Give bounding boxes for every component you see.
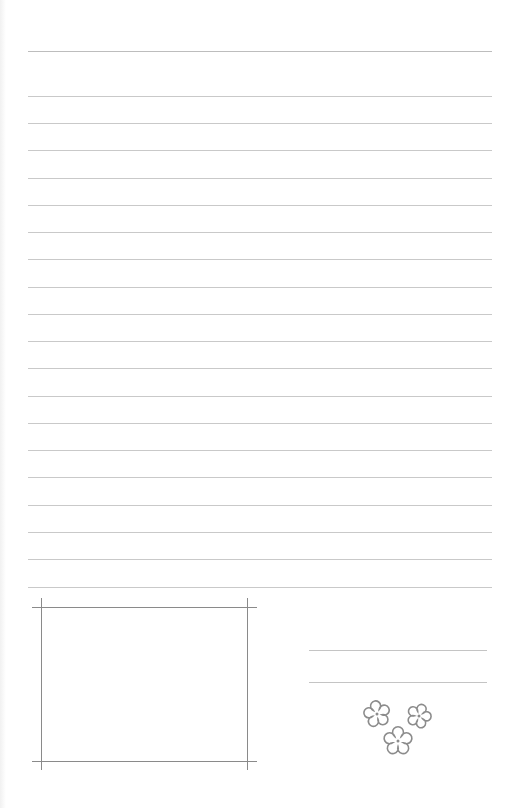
flower-center	[418, 715, 421, 718]
flower-icon	[364, 701, 389, 726]
flower-center	[397, 740, 400, 743]
flower-center	[376, 713, 379, 716]
flower-icon	[384, 727, 412, 754]
flower-icon	[408, 704, 431, 727]
flower-decoration	[0, 0, 518, 808]
